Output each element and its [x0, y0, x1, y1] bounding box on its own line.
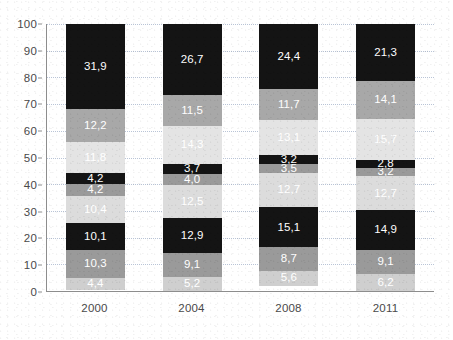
bar-segment[interactable]: 10,1	[66, 223, 125, 250]
bar-segment[interactable]: 11,8	[66, 142, 125, 174]
y-axis-tick-label: 40	[24, 179, 37, 191]
bar-segment[interactable]: 3,7	[163, 164, 222, 174]
bar-segment[interactable]: 8,7	[259, 247, 318, 270]
x-axis-tick-label: 2008	[275, 302, 301, 314]
bar-segment-label: 12,7	[277, 184, 300, 196]
bar-segment-label: 9,1	[377, 256, 393, 268]
bar-segment-label: 9,1	[184, 259, 200, 271]
bar-segment-label: 14,3	[181, 139, 204, 151]
bar-segment[interactable]: 26,7	[163, 24, 222, 95]
bar-segment[interactable]: 15,7	[356, 119, 415, 161]
bar-segment[interactable]: 4,0	[163, 174, 222, 185]
bar-segment-label: 26,7	[181, 54, 204, 66]
bar-segment[interactable]: 14,9	[356, 210, 415, 250]
stacked-bar-chart: 0102030405060708090100 31,912,211,84,24,…	[0, 0, 453, 340]
bar-segment[interactable]: 4,2	[66, 173, 125, 184]
bar-segment-label: 2,8	[377, 160, 393, 167]
bar-segment-label: 13,1	[277, 132, 300, 144]
bar-segment-label: 14,1	[374, 94, 397, 106]
bar-segment[interactable]: 12,5	[163, 185, 222, 218]
bar-segment-label: 31,9	[84, 61, 107, 73]
bar-segment-label: 15,1	[277, 222, 300, 234]
bar-segment-label: 21,3	[374, 47, 397, 59]
bar-segment[interactable]: 11,7	[259, 89, 318, 120]
bar-segment-label: 5,2	[184, 278, 200, 290]
bar-segment-label: 11,8	[84, 152, 106, 164]
y-axis-tick-label: 100	[17, 18, 37, 30]
y-axis-tick-label: 80	[24, 72, 37, 84]
y-axis-tick-label: 10	[24, 259, 37, 271]
bar-segment[interactable]: 3,5	[259, 164, 318, 173]
y-axis-tick-mark	[38, 104, 42, 105]
x-axis-tick-label: 2004	[178, 302, 204, 314]
y-axis-tick-mark	[38, 238, 42, 239]
bar-segment[interactable]: 10,4	[66, 196, 125, 224]
bar-segment[interactable]: 5,2	[163, 277, 222, 291]
y-axis-tick-label: 70	[24, 98, 37, 110]
y-axis-tick-label: 20	[24, 232, 37, 244]
bar-segment-label: 10,3	[84, 258, 107, 270]
y-axis-tick-label: 50	[24, 152, 37, 164]
bar-segment[interactable]: 11,5	[163, 95, 222, 126]
bar-group[interactable]: 24,411,713,13,23,512,715,18,75,6	[259, 24, 318, 291]
bar-segment[interactable]: 3,2	[259, 155, 318, 164]
y-axis-tick-mark	[38, 211, 42, 212]
bar-segment-label: 10,4	[84, 204, 107, 216]
bar-group[interactable]: 26,711,514,33,74,012,512,99,15,2	[163, 24, 222, 291]
bar-segment[interactable]: 31,9	[66, 24, 125, 109]
bar-segment-label: 4,0	[184, 174, 200, 185]
y-axis-tick-label: 30	[24, 206, 37, 218]
bar-segment-label: 4,4	[87, 278, 103, 290]
bar-segment-label: 11,7	[278, 99, 300, 111]
bar-segment[interactable]: 12,7	[259, 173, 318, 207]
bar-segment[interactable]: 5,6	[259, 271, 318, 286]
bar-segment-label: 10,1	[84, 231, 107, 243]
bar-segment-label: 12,7	[374, 188, 397, 200]
bar-segment[interactable]: 10,3	[66, 250, 125, 278]
x-axis-tick-label: 2011	[373, 302, 399, 314]
bar-segment-label: 12,5	[181, 196, 204, 208]
bar-segment[interactable]: 9,1	[163, 253, 222, 277]
bar-segment-label: 12,2	[84, 120, 107, 132]
bar-segment[interactable]: 9,1	[356, 250, 415, 274]
bar-group[interactable]: 21,314,115,72,83,212,714,99,16,2	[356, 24, 415, 291]
bar-segment[interactable]: 12,2	[66, 109, 125, 142]
bar-stack: 26,711,514,33,74,012,512,99,15,2	[163, 24, 222, 291]
bar-segment-label: 3,5	[281, 164, 297, 173]
y-axis-tick-label: 90	[24, 45, 37, 57]
bar-segment-label: 4,2	[87, 173, 103, 184]
bar-group[interactable]: 31,912,211,84,24,210,410,110,34,4	[66, 24, 125, 291]
plot-area: 31,912,211,84,24,210,410,110,34,426,711,…	[46, 24, 434, 292]
bar-segment[interactable]: 4,2	[66, 184, 125, 195]
bar-segment[interactable]: 6,2	[356, 274, 415, 291]
bar-segment[interactable]: 14,1	[356, 81, 415, 119]
bar-segment-label: 5,6	[281, 272, 297, 284]
bar-segment-label: 8,7	[281, 253, 297, 265]
y-axis-tick-label: 0	[30, 286, 37, 298]
bar-segment-label: 3,7	[184, 164, 200, 174]
y-axis-tick-mark	[38, 158, 42, 159]
bar-segment-label: 3,2	[281, 155, 297, 164]
bar-segment[interactable]: 15,1	[259, 207, 318, 247]
bar-stack: 24,411,713,13,23,512,715,18,75,6	[259, 24, 318, 291]
bar-groups: 31,912,211,84,24,210,410,110,34,426,711,…	[47, 24, 434, 291]
bar-segment[interactable]: 3,2	[356, 168, 415, 177]
bar-segment-label: 3,2	[377, 168, 393, 177]
bar-segment[interactable]: 4,4	[66, 278, 125, 290]
bar-segment[interactable]: 2,8	[356, 160, 415, 167]
x-axis: 2000200420082011	[46, 296, 434, 322]
y-axis-tick-mark	[38, 131, 42, 132]
bar-segment[interactable]: 24,4	[259, 24, 318, 89]
bar-segment[interactable]: 21,3	[356, 24, 415, 81]
bar-segment[interactable]: 14,3	[163, 126, 222, 164]
bar-segment-label: 4,2	[87, 184, 103, 195]
bar-segment[interactable]: 12,7	[356, 176, 415, 210]
y-axis: 0102030405060708090100	[0, 24, 42, 292]
y-axis-tick-label: 60	[24, 125, 37, 137]
bar-segment-label: 15,7	[374, 134, 397, 146]
bar-segment-label: 24,4	[277, 51, 300, 63]
bar-segment[interactable]: 13,1	[259, 120, 318, 155]
y-axis-tick-mark	[38, 184, 42, 185]
y-axis-tick-mark	[38, 50, 42, 51]
bar-segment[interactable]: 12,9	[163, 218, 222, 252]
